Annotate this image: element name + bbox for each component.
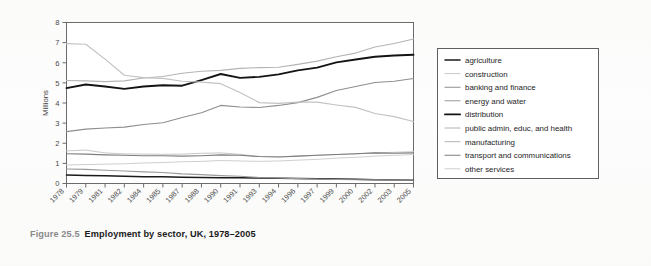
x-axis-tick-label: 1999 <box>318 187 336 205</box>
x-axis-tick-label: 2003 <box>376 187 394 205</box>
legend-label-distribution: distribution <box>465 110 503 119</box>
y-axis-tick-label: 4 <box>55 99 59 108</box>
figure-number: Figure 25.5 <box>30 229 80 239</box>
y-axis-tick-label: 2 <box>55 139 59 148</box>
x-axis-tick-label: 1987 <box>164 187 182 205</box>
y-axis-tick-label: 1 <box>55 159 59 168</box>
legend-label-banking-and-finance: banking and finance <box>465 83 536 92</box>
y-axis-tick-label: 7 <box>55 38 59 47</box>
x-axis-tick-label: 1979 <box>67 187 85 205</box>
y-axis-tick-label: 8 <box>55 18 59 27</box>
x-axis-tick-label: 2000 <box>337 187 355 205</box>
x-axis-tick-label: 1981 <box>86 187 104 205</box>
x-axis-tick-label: 1997 <box>299 187 317 205</box>
legend-label-other-services: other services <box>465 165 514 174</box>
legend-label-manufacturing: manufacturing <box>465 138 515 147</box>
legend-label-public-admin-educ-and-health: public admin, educ, and health <box>465 124 572 133</box>
y-axis-tick-label: 6 <box>55 59 59 68</box>
legend-label-transport-and-communications: transport and communications <box>465 151 571 160</box>
y-axis-title: Millions <box>41 90 50 116</box>
x-axis: 1978197919811982198419851987198819901991… <box>48 184 414 205</box>
legend-label-construction: construction <box>465 70 508 79</box>
figure-container: 012345678 197819791981198219841985198719… <box>0 0 651 266</box>
figure-caption: Figure 25.5Employment by sector, UK, 197… <box>30 229 256 239</box>
x-axis-tick-label: 1996 <box>279 187 297 205</box>
plot-frame <box>67 23 414 184</box>
y-axis-tick-label: 3 <box>55 119 59 128</box>
x-axis-tick-label: 2005 <box>395 187 413 205</box>
x-axis-tick-label: 1984 <box>125 187 143 205</box>
figure-page: 012345678 197819791981198219841985198719… <box>0 0 651 266</box>
x-axis-tick-label: 1994 <box>260 187 278 205</box>
x-axis-tick-label: 1991 <box>221 187 239 205</box>
x-axis-tick-label: 1993 <box>241 187 259 205</box>
y-axis-tick-label: 5 <box>55 79 59 88</box>
x-axis-tick-label: 1990 <box>202 187 220 205</box>
y-axis: 012345678 <box>55 18 66 188</box>
x-axis-tick-label: 2002 <box>356 187 374 205</box>
legend-label-energy-and-water: energy and water <box>465 97 526 106</box>
employment-by-sector-line-chart: 012345678 197819791981198219841985198719… <box>0 0 651 266</box>
x-axis-tick-label: 1978 <box>48 187 66 205</box>
x-axis-tick-label: 1985 <box>144 187 162 205</box>
x-axis-tick-label: 1982 <box>106 187 124 205</box>
figure-title: Employment by sector, UK, 1978–2005 <box>85 229 256 239</box>
legend-label-agriculture: agriculture <box>465 56 502 65</box>
x-axis-tick-label: 1988 <box>183 187 201 205</box>
